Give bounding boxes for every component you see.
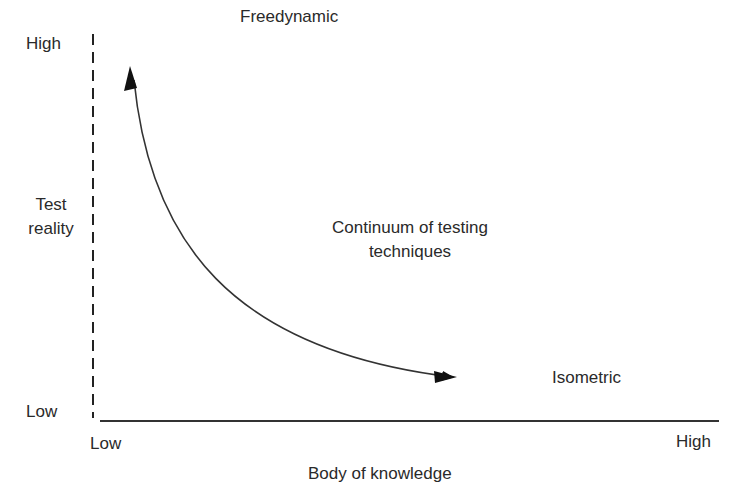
y-axis-low-label: Low (26, 402, 57, 422)
arrowhead-right-icon (434, 371, 457, 383)
x-axis-title: Body of knowledge (308, 464, 452, 484)
y-axis-title-line2: reality (20, 217, 82, 241)
freedynamic-label: Freedynamic (240, 7, 338, 27)
x-axis-high-label: High (676, 432, 711, 452)
y-axis-title: Test reality (20, 193, 82, 241)
y-axis-title-line1: Test (20, 193, 82, 217)
isometric-label: Isometric (552, 368, 621, 388)
arrowhead-up-icon (124, 66, 137, 91)
continuum-label-line1: Continuum of testing (295, 216, 525, 240)
x-axis-low-label: Low (90, 434, 121, 454)
continuum-label-line2: techniques (295, 240, 525, 264)
y-axis-high-label: High (26, 34, 61, 54)
continuum-label: Continuum of testing techniques (295, 216, 525, 264)
